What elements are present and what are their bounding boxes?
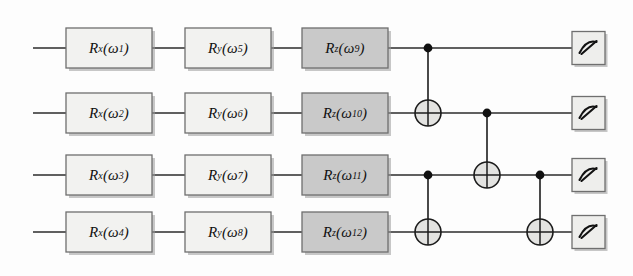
cnot-q1-q2-control-dot	[483, 109, 492, 118]
rz-gate-q3[interactable]	[302, 212, 388, 252]
ry-gate-q2[interactable]	[185, 155, 271, 195]
measure-q1[interactable]	[572, 97, 608, 133]
measurement-gates	[572, 32, 608, 252]
circuit-canvas	[0, 0, 633, 276]
ry-gate-q1[interactable]	[185, 93, 271, 133]
cnot-q0-q1[interactable]	[415, 44, 441, 126]
cnot-q1-q2[interactable]	[474, 109, 500, 188]
rx-gate-q1[interactable]	[66, 93, 152, 133]
rx-gate-q0[interactable]	[66, 28, 152, 68]
cnot-q0-q1-control-dot	[424, 44, 433, 53]
qubit-wires	[33, 48, 572, 232]
cnot-q2-q3-b[interactable]	[527, 171, 553, 245]
ry-gate-q3[interactable]	[185, 212, 271, 252]
ry-gate-q0[interactable]	[185, 28, 271, 68]
measure-q3[interactable]	[572, 216, 608, 252]
rx-gate-q2[interactable]	[66, 155, 152, 195]
cnot-gates	[415, 44, 553, 245]
rz-gate-q1[interactable]	[302, 93, 388, 133]
rx-gate-q3[interactable]	[66, 212, 152, 252]
measure-q2[interactable]	[572, 159, 608, 195]
rz-gate-q2[interactable]	[302, 155, 388, 195]
cnot-q2-q3-b-control-dot	[536, 171, 545, 180]
cnot-q2-q3[interactable]	[415, 171, 441, 245]
quantum-circuit-diagram: Rx(ω1)Rx(ω2)Rx(ω3)Rx(ω4)Ry(ω5)Ry(ω6)Ry(ω…	[0, 0, 633, 276]
measure-q0[interactable]	[572, 32, 608, 68]
cnot-q2-q3-control-dot	[424, 171, 433, 180]
gate-boxes	[66, 28, 391, 255]
rz-gate-q0[interactable]	[302, 28, 388, 68]
